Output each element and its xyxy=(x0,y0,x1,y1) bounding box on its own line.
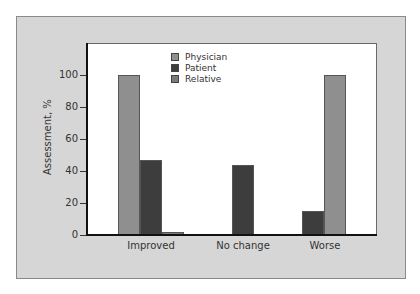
legend-swatch-relative xyxy=(171,75,179,83)
bar-improved-physician xyxy=(118,75,140,235)
legend-item-relative: Relative xyxy=(171,73,227,84)
bar-nochange-patient xyxy=(232,165,254,235)
legend-item-physician: Physician xyxy=(171,51,227,62)
y-label-100: 100 xyxy=(48,69,78,80)
x-axis xyxy=(86,234,377,236)
y-axis-title: Assessment, % xyxy=(42,99,53,175)
y-label-0: 0 xyxy=(48,229,78,240)
bar-improved-patient xyxy=(140,160,162,235)
legend-label-relative: Relative xyxy=(185,74,221,84)
legend-label-patient: Patient xyxy=(185,63,216,73)
x-label-worse: Worse xyxy=(285,240,365,251)
legend-swatch-physician xyxy=(171,53,179,61)
y-axis xyxy=(86,43,88,236)
legend-swatch-patient xyxy=(171,64,179,72)
bar-worse-patient xyxy=(302,211,324,235)
x-label-improved: Improved xyxy=(111,240,191,251)
x-label-no-change: No change xyxy=(203,240,283,251)
legend-label-physician: Physician xyxy=(185,52,227,62)
bar-worse-physician xyxy=(324,75,346,235)
legend-item-patient: Patient xyxy=(171,62,227,73)
legend: Physician Patient Relative xyxy=(171,51,227,84)
y-label-20: 20 xyxy=(48,197,78,208)
